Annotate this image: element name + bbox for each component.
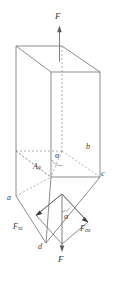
prism-top-face [16, 46, 100, 72]
lower-section-edge-d-c [46, 177, 100, 243]
vertex-label-a: a [7, 194, 11, 202]
lower-section-edge-a-d [16, 196, 46, 243]
arrow-down-right-icon [82, 217, 89, 223]
vertex-label-d: d [38, 243, 42, 251]
normal-force-subscript: σα [85, 227, 90, 233]
prism-bottom-right-edge-hidden [62, 151, 100, 177]
vertex-label-c: c [101, 170, 105, 178]
shear-force-shaft [39, 194, 62, 213]
lower-section-edge-a-front-hidden [16, 177, 51, 196]
cropped-caption-bottom [0, 273, 116, 281]
arrow-down-icon [60, 245, 65, 252]
applied-force-top-label: F [55, 12, 61, 21]
prism-force-diagram [0, 0, 116, 281]
force-parallelogram [36, 194, 89, 252]
force-angle-label: α [64, 213, 68, 221]
shear-force-subscript: τα [18, 225, 23, 231]
prism-top-face-outline [16, 46, 100, 72]
normal-force-label: Fσα [80, 225, 90, 234]
cross-section-area-label: A0 [33, 163, 41, 172]
arrow-up-icon [57, 26, 62, 33]
figure-container: F b c a d α A0 Fτα Fσα α F [0, 0, 116, 281]
applied-force-bottom-label: F [58, 255, 64, 264]
plane-angle-label: α [55, 152, 59, 160]
area-subscript: 0 [38, 165, 41, 171]
vertex-label-b: b [86, 143, 90, 151]
lower-section-edge-front-d [46, 177, 51, 243]
shear-force-label: Fτα [13, 223, 23, 232]
